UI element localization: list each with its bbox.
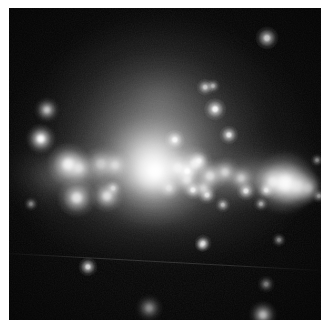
sky-background <box>9 8 321 320</box>
image-viewport <box>0 0 329 327</box>
astronomical-image-frame <box>9 8 321 320</box>
